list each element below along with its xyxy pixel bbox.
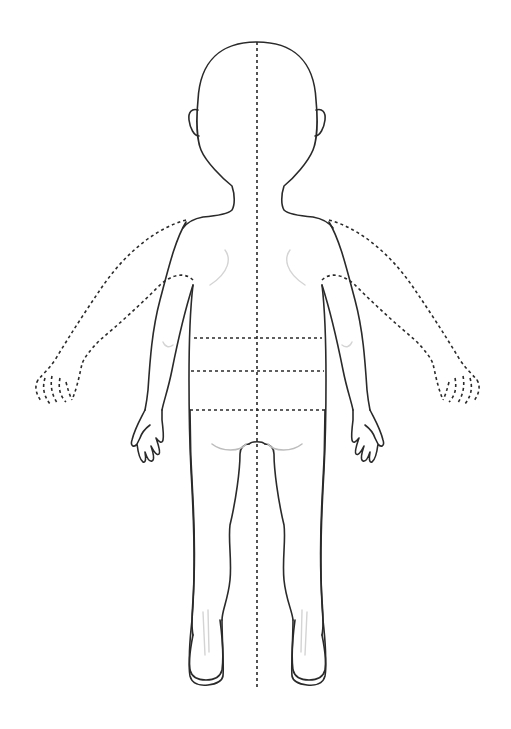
right-scapula-shade — [287, 250, 305, 285]
head-outline — [183, 42, 333, 228]
torso-left-side — [189, 285, 223, 680]
body-diagram — [0, 0, 511, 729]
torso-right-side — [292, 285, 326, 680]
left-scapula-shade — [210, 250, 228, 285]
right-ankle-shade — [301, 610, 307, 655]
left-hand — [131, 410, 163, 462]
left-hand-raised — [36, 376, 72, 404]
right-leg-inner — [265, 444, 293, 620]
crotch — [249, 442, 265, 444]
torso-left-outline — [145, 222, 186, 410]
left-arm-raised-upper — [38, 220, 186, 380]
right-hand — [352, 410, 384, 462]
right-arm-raised-lower — [322, 275, 443, 400]
left-arm-raised-lower — [72, 275, 193, 400]
left-leg-inner — [222, 444, 249, 620]
torso-right-outline — [329, 222, 370, 410]
left-elbow-shade — [163, 342, 173, 347]
right-arm-raised-upper — [329, 220, 477, 380]
right-elbow-shade — [342, 342, 352, 347]
right-hand-raised — [443, 376, 479, 404]
left-ankle-shade — [203, 610, 209, 655]
